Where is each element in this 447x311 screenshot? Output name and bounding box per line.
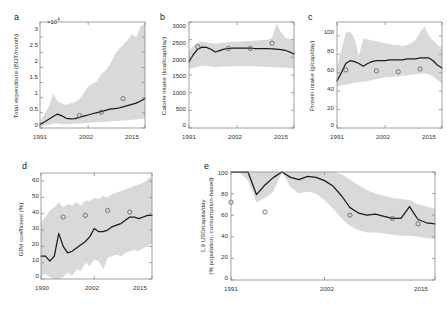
panel-d: d GINI coefficient (%) 60 50 40 30 20 10…: [0, 152, 160, 311]
panel-a: a Total expenditure (BDT/month) ×104 3 2…: [0, 0, 150, 150]
panel-c: c Protein intake (g/cap/day) 100 80 60 4…: [297, 0, 447, 150]
panel-c-plot: [297, 0, 447, 150]
panel-a-plot: [0, 0, 150, 150]
panel-e: e 1.9 USD/capita/day (% population, cons…: [186, 152, 447, 311]
panel-b: b Calorie intake (kcal/cap/day) 3000 250…: [149, 0, 299, 150]
panel-e-plot: [186, 152, 447, 311]
panel-d-plot: [0, 152, 160, 311]
panel-b-plot: [149, 0, 299, 150]
figure-panel-grid: a Total expenditure (BDT/month) ×104 3 2…: [0, 0, 447, 311]
